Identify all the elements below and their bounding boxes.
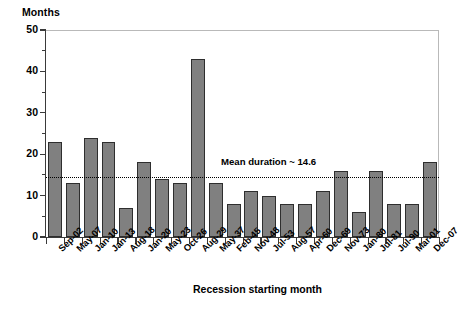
bar-slot [385, 30, 403, 237]
x-axis-title: Recession starting month [0, 283, 457, 295]
y-axis-tick-label: 20 [12, 147, 38, 159]
bar-slot [332, 30, 350, 237]
bar-slot [153, 30, 171, 237]
bar-slot [64, 30, 82, 237]
bar-slot [189, 30, 207, 237]
bar[interactable] [102, 142, 116, 237]
bar[interactable] [191, 59, 205, 237]
y-axis-tick-label: 40 [12, 64, 38, 76]
bar-slot [135, 30, 153, 237]
y-axis-title: Months [22, 6, 60, 18]
mean-duration-line [46, 177, 439, 178]
bar-slot [368, 30, 386, 237]
bar-slot [278, 30, 296, 237]
bar-slot [82, 30, 100, 237]
x-axis-title-text: Recession starting month [135, 283, 322, 295]
bar-slot [117, 30, 135, 237]
bar-slot [260, 30, 278, 237]
bar-slot [46, 30, 64, 237]
bar-slot [171, 30, 189, 237]
bars-group [46, 30, 439, 237]
y-axis-tick-label: 30 [12, 106, 38, 118]
bar-slot [314, 30, 332, 237]
bar-slot [100, 30, 118, 237]
bar-slot [296, 30, 314, 237]
mean-duration-label: Mean duration ~ 14.6 [221, 156, 316, 167]
bar-slot [243, 30, 261, 237]
bar[interactable] [84, 138, 98, 237]
x-axis-tick [46, 238, 47, 244]
y-axis-tick-label: 10 [12, 189, 38, 201]
y-axis-tick-label: 0 [12, 230, 38, 242]
y-axis-tick-label: 50 [12, 23, 38, 35]
bar-slot [421, 30, 439, 237]
bar-slot [225, 30, 243, 237]
bar[interactable] [48, 142, 62, 237]
bar-slot [350, 30, 368, 237]
bar-slot [403, 30, 421, 237]
bar-slot [207, 30, 225, 237]
